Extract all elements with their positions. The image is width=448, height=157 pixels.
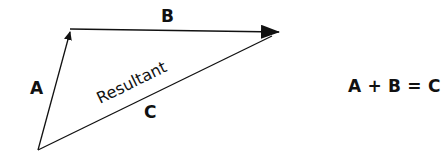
vector-b-line — [70, 29, 279, 32]
label-b: B — [161, 6, 174, 26]
label-a: A — [30, 78, 44, 98]
label-resultant: Resultant — [93, 57, 169, 107]
label-c: C — [144, 102, 156, 122]
vector-c-resultant — [38, 36, 272, 150]
equation-text: A + B = C — [348, 76, 441, 96]
vector-b — [70, 29, 279, 32]
vector-c-line — [38, 36, 272, 150]
